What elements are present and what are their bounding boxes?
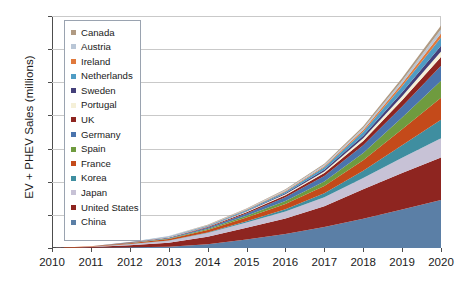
legend-item-label: Japan	[81, 188, 107, 198]
legend-item-label: China	[81, 217, 106, 227]
x-tick-label: 2015	[226, 256, 268, 268]
legend-item-uk[interactable]: UK	[71, 113, 140, 128]
x-tick-mark	[324, 248, 325, 252]
legend-item-austria[interactable]: Austria	[71, 40, 140, 55]
legend-item-spain[interactable]: Spain	[71, 142, 140, 157]
x-tick-label: 2017	[303, 256, 345, 268]
legend-swatch-icon	[71, 59, 76, 64]
x-tick-mark	[208, 248, 209, 252]
x-tick-label: 2012	[109, 256, 151, 268]
x-tick-label: 2013	[148, 256, 190, 268]
legend-item-germany[interactable]: Germany	[71, 127, 140, 142]
x-tick-mark	[91, 248, 92, 252]
x-tick-mark	[52, 248, 53, 252]
y-axis-title: EV + PHEV Sales (millions)	[23, 12, 35, 242]
legend-item-label: Ireland	[81, 57, 110, 67]
x-tick-label: 2010	[31, 256, 73, 268]
legend-item-china[interactable]: China	[71, 215, 140, 230]
legend-item-label: Portugal	[81, 100, 117, 110]
legend-swatch-icon	[71, 103, 76, 108]
x-tick-label: 2016	[264, 256, 306, 268]
legend-swatch-icon	[71, 30, 76, 35]
legend-item-label: Sweden	[81, 86, 116, 96]
legend-swatch-icon	[71, 132, 76, 137]
legend-item-label: Austria	[81, 42, 111, 52]
legend-item-label: Korea	[81, 173, 107, 183]
legend-swatch-icon	[71, 44, 76, 49]
legend-swatch-icon	[71, 190, 76, 195]
legend-swatch-icon	[71, 220, 76, 225]
legend-item-japan[interactable]: Japan	[71, 186, 140, 201]
x-tick-label: 2020	[420, 256, 461, 268]
x-tick-mark	[130, 248, 131, 252]
legend-item-portugal[interactable]: Portugal	[71, 98, 140, 113]
legend[interactable]: CanadaAustriaIrelandNetherlandsSwedenPor…	[64, 20, 141, 241]
legend-swatch-icon	[71, 117, 76, 122]
legend-item-united-states[interactable]: United States	[71, 200, 140, 215]
x-tick-mark	[247, 248, 248, 252]
x-tick-mark	[363, 248, 364, 252]
x-tick-mark	[402, 248, 403, 252]
legend-item-label: France	[81, 159, 111, 169]
x-tick-label: 2011	[70, 256, 112, 268]
legend-swatch-icon	[71, 205, 76, 210]
legend-item-label: Germany	[81, 130, 120, 140]
legend-item-label: Canada	[81, 28, 115, 38]
legend-item-label: Netherlands	[81, 71, 133, 81]
ev-phev-sales-stacked-area-chart: EV + PHEV Sales (millions) 0.01.02.03.04…	[0, 0, 461, 287]
x-tick-label: 2019	[381, 256, 423, 268]
x-tick-mark	[441, 248, 442, 252]
legend-swatch-icon	[71, 176, 76, 181]
legend-swatch-icon	[71, 147, 76, 152]
x-tick-mark	[169, 248, 170, 252]
x-tick-label: 2014	[187, 256, 229, 268]
legend-item-canada[interactable]: Canada	[71, 25, 140, 40]
legend-swatch-icon	[71, 74, 76, 79]
legend-item-sweden[interactable]: Sweden	[71, 83, 140, 98]
x-tick-mark	[285, 248, 286, 252]
legend-swatch-icon	[71, 161, 76, 166]
legend-item-label: Spain	[81, 144, 106, 154]
legend-item-netherlands[interactable]: Netherlands	[71, 69, 140, 84]
legend-item-france[interactable]: France	[71, 156, 140, 171]
legend-item-korea[interactable]: Korea	[71, 171, 140, 186]
legend-item-ireland[interactable]: Ireland	[71, 54, 140, 69]
legend-swatch-icon	[71, 88, 76, 93]
legend-item-label: UK	[81, 115, 94, 125]
x-tick-label: 2018	[342, 256, 384, 268]
legend-item-label: United States	[81, 203, 139, 213]
